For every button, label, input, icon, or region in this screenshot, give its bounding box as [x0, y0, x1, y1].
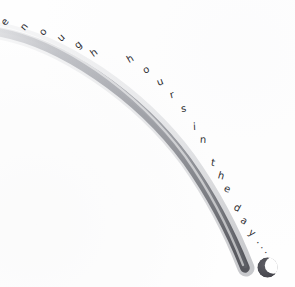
- pencil-drawing: [0, 0, 295, 287]
- phrase-letter: n: [200, 135, 207, 145]
- arc-group: [0, 26, 246, 268]
- arc-upper-edge-highlight: [0, 26, 243, 265]
- crescent-moon-icon: [257, 257, 281, 278]
- phrase-letter: i: [193, 122, 196, 132]
- arc-halo-stroke: [0, 30, 246, 268]
- arc-main-stroke: [0, 31, 245, 268]
- arc-core-stroke: [0, 29, 245, 266]
- sketch-canvas: enoughhoursintheday...: [0, 0, 295, 287]
